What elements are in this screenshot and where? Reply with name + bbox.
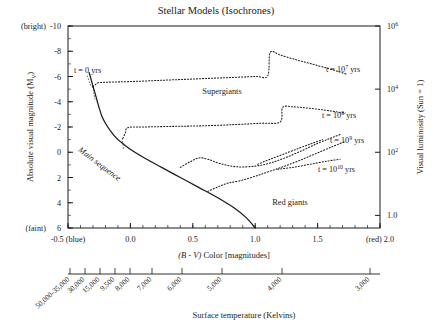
x-tick-label-3: 1.0 (250, 235, 260, 244)
region-label-red-giants: Red giants (272, 198, 308, 207)
hr-diagram-svg: Stellar Models (Isochrones) -0.5 (blue)0… (0, 0, 432, 333)
temp-tick-label-6: 6,000 (165, 275, 184, 293)
y-right-tick-label-3: 1.0 (387, 211, 397, 220)
temp-tick-label-5: 7,000 (135, 275, 154, 293)
annotation-t-1e10: t = 1010 yrs (318, 164, 355, 175)
series-isochrone-1e9-upper-branch (258, 140, 323, 165)
y-tick-label-6: 2 (57, 174, 61, 183)
x-tick-label-4: 1.5 (312, 235, 322, 244)
region-label-main-sequence: Main sequence (76, 145, 123, 183)
y-tick-label-4: -2 (54, 123, 61, 132)
y-tick-label-2: -6 (54, 73, 61, 82)
temp-tick-label-4: 8,000 (113, 275, 132, 293)
temp-tick-label-7: 5,000 (205, 275, 224, 293)
annotation-t-1e7: t = 107 yrs (326, 64, 360, 75)
annotation-t-1e8: t = 108 yrs (322, 110, 356, 121)
y-axis-label: Absolute visual magnitude (MV) (25, 72, 37, 182)
y-tick-label-7: 4 (57, 199, 61, 208)
y-tick-label-5: 0 (57, 148, 61, 157)
tick-marks-group (68, 26, 380, 228)
region-label-supergiants: Supergiants (202, 87, 241, 96)
stellar-isochrones-figure: Stellar Models (Isochrones) -0.5 (blue)0… (0, 0, 432, 333)
y-edge-label-faint: (faint) (26, 224, 47, 233)
y-right-tick-label-2: 102 (387, 147, 398, 158)
x-axis-label-secondary: Surface temperature (Kelvins) (193, 310, 296, 320)
x-axis-label: (B - V) Color [magnitudes] (178, 250, 270, 260)
temp-tick-label-9: 3,000 (353, 275, 372, 293)
y-axis-label-right: Visual luminosity (Sun = 1) (415, 80, 425, 175)
y-right-tick-label-1: 104 (387, 84, 398, 95)
y-edge-label-bright: (bright) (21, 22, 46, 31)
annotations-group: t = 0 yrst = 107 yrst = 108 yrst = 109 y… (74, 64, 364, 208)
annotation-t-0: t = 0 yrs (74, 66, 101, 75)
y-right-tick-label-0: 106 (387, 21, 398, 32)
annotation-t-1e9: t = 109 yrs (330, 135, 364, 146)
tick-labels-group: -0.5 (blue)0.00.51.01.5(red) 2.0-10(brig… (21, 21, 398, 245)
series-main-sequence (89, 73, 255, 228)
series-isochrone-1e7 (93, 51, 348, 86)
temp-tick-label-8: 4,000 (265, 275, 284, 293)
data-series-group (87, 51, 347, 228)
series-isochrone-1e9 (180, 135, 340, 168)
y-tick-label-8: 6 (57, 224, 61, 233)
chart-title: Stellar Models (Isochrones) (158, 5, 275, 17)
plot-frame (68, 26, 380, 228)
y-tick-label-0: -10 (50, 22, 61, 31)
x-tick-label-5: (red) 2.0 (366, 235, 394, 244)
y-tick-label-1: -8 (54, 47, 61, 56)
x-tick-label-2: 0.5 (188, 235, 198, 244)
y-tick-label-3: -4 (54, 98, 61, 107)
temp-tick-label-0: 50,000-35,000 (33, 275, 71, 311)
x-tick-label-1: 0.0 (125, 235, 135, 244)
series-isochrone-1e8 (123, 106, 345, 138)
x-tick-label-0: -0.5 (blue) (51, 235, 86, 244)
temp-tick-label-3: 9,500 (98, 275, 117, 293)
